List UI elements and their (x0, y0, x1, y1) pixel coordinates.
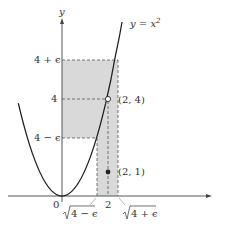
y-tick-4-minus-eps: 4 − ϵ (34, 132, 61, 143)
x-tick-2: 2 (105, 199, 111, 210)
x-axis-arrow-icon (206, 194, 212, 198)
curve-label: y = x2 (129, 17, 161, 29)
x-tick-0: 0 (53, 199, 59, 210)
leader-sqrt-4-minus-eps (90, 198, 96, 205)
y-tick-4: 4 (51, 93, 57, 104)
epsilon-delta-diagram: y y = x2 4 + ϵ 4 4 − ϵ (2, 4) (2, 1) 0 2… (0, 0, 227, 232)
x-tick-sqrt-4-minus-eps: 4 − ϵ (63, 206, 98, 219)
y-axis-label: y (58, 6, 65, 17)
y-tick-4-plus-eps: 4 + ϵ (34, 54, 61, 65)
point-label-2-4: (2, 4) (118, 94, 145, 105)
point-2-4-open (105, 96, 110, 101)
y-axis-arrow-icon (60, 18, 64, 24)
svg-text:4 − ϵ: 4 − ϵ (71, 208, 98, 219)
point-2-1-filled (106, 170, 111, 175)
x-band-shade (97, 60, 118, 196)
point-label-2-1: (2, 1) (118, 166, 145, 177)
svg-text:4 + ϵ: 4 + ϵ (131, 208, 158, 219)
leader-sqrt-4-plus-eps (119, 198, 125, 205)
x-tick-sqrt-4-plus-eps: 4 + ϵ (123, 206, 158, 219)
